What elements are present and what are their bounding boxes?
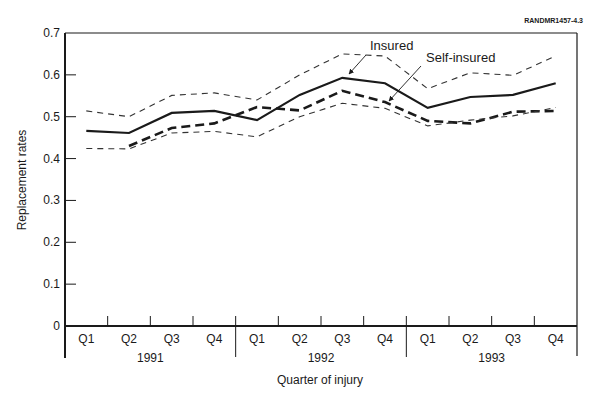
y-axis: 00.10.20.30.40.50.60.7 — [43, 26, 76, 333]
y-tick-label: 0.5 — [43, 110, 60, 124]
y-tick-label: 0.1 — [43, 277, 60, 291]
x-tick-label: Q3 — [164, 332, 180, 346]
annotation-self-insured: Self-insured — [389, 50, 495, 101]
y-tick-label: 0.7 — [43, 26, 60, 40]
series-line-lower-bound — [86, 103, 555, 149]
annotation-insured-label: Insured — [370, 38, 413, 53]
y-tick-label: 0.2 — [43, 235, 60, 249]
x-tick-label: Q2 — [462, 332, 478, 346]
x-tick-label: Q3 — [505, 332, 521, 346]
line-chart: RANDMR1457-4.3 00.10.20.30.40.50.60.7 Q1… — [0, 0, 594, 403]
year-label: 1991 — [137, 351, 164, 365]
y-axis-title: Replacement rates — [15, 130, 29, 231]
y-tick-label: 0 — [53, 319, 60, 333]
x-tick-label: Q3 — [334, 332, 350, 346]
plot-frame — [65, 33, 577, 358]
year-label: 1992 — [308, 351, 335, 365]
x-axis-title: Quarter of injury — [277, 373, 363, 387]
x-tick-label: Q2 — [121, 332, 137, 346]
y-tick-label: 0.4 — [43, 152, 60, 166]
annotation-self-insured-label: Self-insured — [426, 50, 495, 65]
y-tick-label: 0.6 — [43, 68, 60, 82]
figure-id: RANDMR1457-4.3 — [524, 17, 583, 24]
x-axis: Q1Q2Q3Q4Q1Q2Q3Q4Q1Q2Q3Q4199119921993 — [78, 316, 564, 365]
x-tick-label: Q1 — [249, 332, 265, 346]
y-tick-label: 0.3 — [43, 193, 60, 207]
annotation-insured-arrow-icon — [349, 55, 366, 74]
series-line-insured — [86, 78, 555, 133]
x-tick-label: Q1 — [420, 332, 436, 346]
x-tick-label: Q1 — [78, 332, 94, 346]
x-tick-label: Q4 — [377, 332, 393, 346]
year-label: 1993 — [478, 351, 505, 365]
x-tick-label: Q2 — [292, 332, 308, 346]
series-layer — [86, 54, 555, 149]
x-tick-label: Q4 — [206, 332, 222, 346]
x-tick-label: Q4 — [548, 332, 564, 346]
